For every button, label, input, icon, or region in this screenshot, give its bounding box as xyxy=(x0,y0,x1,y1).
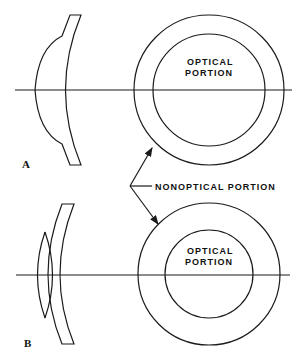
nonoptical-callout: NONOPTICAL PORTION xyxy=(130,148,276,224)
optical-zone-circle-b xyxy=(165,230,253,318)
optical-label-a-line2: PORTION xyxy=(185,68,233,78)
panel-label-b: B xyxy=(24,337,32,349)
arrow-to-a xyxy=(130,148,152,186)
nonoptical-label: NONOPTICAL PORTION xyxy=(155,182,276,192)
optical-label-b-line1: OPTICAL xyxy=(187,246,234,256)
arrow-to-b xyxy=(130,186,158,224)
lens-diagram: OPTICAL PORTION A NONOPTICAL PORTION OPT… xyxy=(0,0,307,359)
outer-circle-b xyxy=(138,203,280,345)
panel-label-a: A xyxy=(22,158,30,170)
panel-b: OPTICAL PORTION B xyxy=(16,203,290,349)
optical-label-b-line2: PORTION xyxy=(185,257,233,267)
optical-label-a-line1: OPTICAL xyxy=(187,57,234,67)
panel-a: OPTICAL PORTION A xyxy=(15,15,292,170)
